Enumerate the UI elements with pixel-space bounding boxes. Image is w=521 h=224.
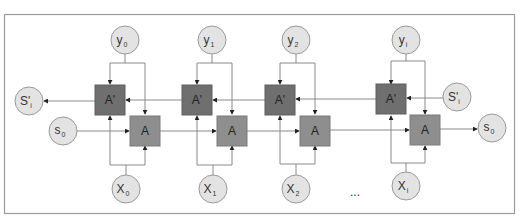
svg-text:A': A': [386, 92, 396, 106]
backward-cell: A': [182, 85, 212, 115]
svg-text:A: A: [421, 123, 429, 137]
backward-cell: A': [376, 84, 406, 114]
backward-state-input-node: S'i: [443, 83, 471, 111]
svg-text:A: A: [228, 124, 236, 138]
output-node: y1: [198, 26, 226, 54]
forward-state-input-node: s0: [49, 117, 77, 145]
output-node: y0: [111, 26, 139, 54]
diagram-frame: [5, 15, 515, 214]
forward-cell: A: [410, 115, 440, 145]
rnn-diagram: A' A' A' A' A A A A y0 y1 y2: [0, 0, 521, 224]
svg-text:A: A: [311, 124, 319, 138]
input-node: Xi: [392, 172, 420, 200]
output-node: y2: [282, 26, 310, 54]
svg-text:A': A': [275, 93, 285, 107]
svg-text:A': A': [105, 93, 115, 107]
backward-cell: A': [95, 85, 125, 115]
ellipsis: ...: [350, 185, 360, 199]
output-node: yi: [392, 26, 420, 54]
input-node: X2: [282, 175, 310, 203]
svg-text:A': A': [192, 93, 202, 107]
forward-cell: A: [217, 116, 247, 146]
input-node: X0: [112, 175, 140, 203]
forward-cell: A: [130, 116, 160, 146]
backward-cell: A': [265, 85, 295, 115]
forward-cell: A: [300, 116, 330, 146]
forward-state-output-node: s0: [478, 114, 506, 142]
svg-text:A: A: [141, 124, 149, 138]
input-node: X1: [199, 175, 227, 203]
backward-state-output-node: S'i: [15, 87, 43, 115]
